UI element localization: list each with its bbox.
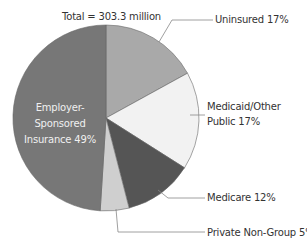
- label-medicare: Medicare 12%: [207, 190, 276, 205]
- label-uninsured: Uninsured 17%: [215, 12, 289, 27]
- label-employer: Employer- Sponsored Insurance 49%: [10, 100, 110, 148]
- label-medicaid-line1: Medicaid/Other: [207, 99, 281, 114]
- leader-medicare: [158, 190, 205, 198]
- label-private-non-group: Private Non-Group 5%: [207, 225, 307, 240]
- label-medicaid-line2: Public 17%: [207, 114, 281, 129]
- label-employer-line2: Sponsored: [10, 116, 110, 132]
- label-employer-line1: Employer-: [10, 100, 110, 116]
- label-medicaid: Medicaid/Other Public 17%: [207, 99, 281, 129]
- leader-uninsured: [159, 20, 213, 42]
- chart-subtitle: Total = 303.3 million: [62, 11, 161, 22]
- leader-private: [116, 209, 205, 232]
- label-employer-line3: Insurance 49%: [10, 132, 110, 148]
